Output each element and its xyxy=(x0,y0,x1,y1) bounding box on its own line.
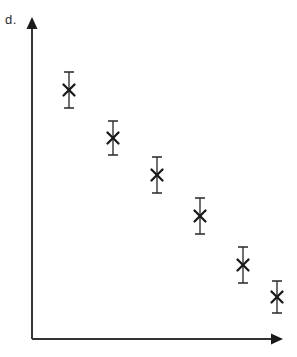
y-axis-arrowhead xyxy=(27,17,38,29)
data-point xyxy=(272,281,283,313)
data-point xyxy=(108,121,119,155)
data-point xyxy=(152,157,163,193)
x-axis-arrowhead xyxy=(271,334,283,345)
scatter-plot-canvas xyxy=(0,0,297,357)
data-point xyxy=(64,72,75,108)
data-point xyxy=(195,198,206,234)
axes-group xyxy=(27,17,284,345)
data-point xyxy=(238,247,249,283)
figure-panel: d. xyxy=(0,0,297,357)
data-series-group xyxy=(64,72,283,313)
